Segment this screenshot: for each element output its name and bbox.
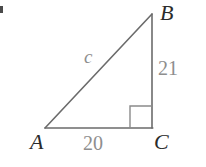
right-triangle-figure: A B C c 21 20	[0, 0, 206, 167]
right-angle-marker-icon	[130, 106, 152, 128]
side-label-base-leg: 20	[83, 133, 103, 153]
vertex-label-a: A	[30, 131, 43, 153]
vertex-label-c: C	[154, 131, 169, 153]
side-label-vertical-leg: 21	[158, 58, 178, 78]
side-label-hypotenuse: c	[84, 47, 92, 66]
edge-artifact-mark	[0, 6, 3, 13]
vertex-label-b: B	[160, 2, 173, 24]
hypotenuse-line	[45, 14, 152, 128]
